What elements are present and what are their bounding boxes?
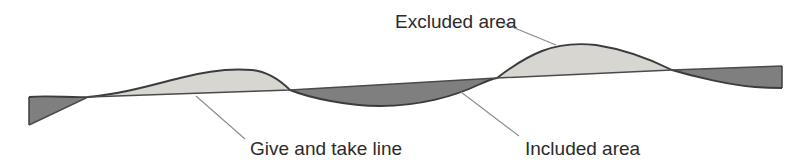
label-included-area: Included area — [525, 138, 641, 159]
label-give-and-take-line: Give and take line — [250, 138, 402, 159]
give-and-take-diagram: Excluded area Give and take line Include… — [0, 0, 800, 168]
label-excluded-area: Excluded area — [395, 11, 517, 32]
diagram-canvas: Excluded area Give and take line Include… — [0, 0, 800, 168]
